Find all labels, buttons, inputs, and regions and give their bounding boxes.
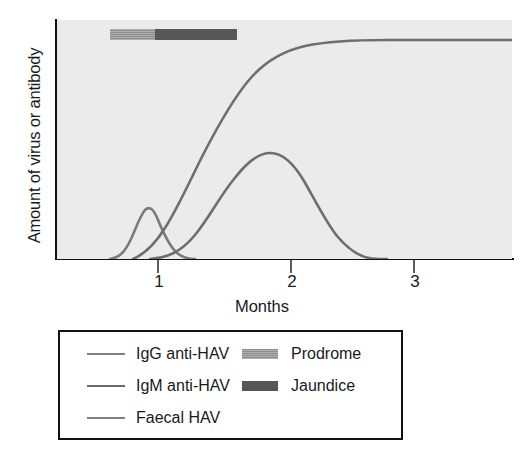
- legend-label-igm: IgM anti-HAV: [136, 378, 230, 394]
- hav-serology-figure: Amount of virus or antibody 1 2 3 Months…: [0, 0, 524, 464]
- legend-item-faecal: Faecal HAV: [87, 410, 220, 426]
- curve-faecal-hav: [110, 208, 195, 259]
- legend-item-igg: IgG anti-HAV: [87, 346, 229, 362]
- legend-line-icon-faecal: [87, 417, 125, 419]
- y-axis-label: Amount of virus or antibody: [25, 16, 44, 276]
- legend-swatch-icon-jaundice: [242, 381, 278, 391]
- x-tick-label-2: 2: [277, 272, 307, 292]
- legend-label-prodrome: Prodrome: [291, 346, 361, 362]
- legend-label-jaundice: Jaundice: [291, 378, 355, 394]
- x-tick-label-1: 1: [144, 272, 174, 292]
- legend-item-prodrome: Prodrome: [242, 346, 361, 362]
- legend-line-icon-igg: [87, 353, 125, 355]
- legend-swatch-icon-prodrome: [242, 349, 278, 359]
- curve-igm-anti-hav: [150, 153, 387, 259]
- legend-item-jaundice: Jaundice: [242, 378, 355, 394]
- legend-line-icon-igm: [87, 385, 125, 387]
- curves-svg: [57, 20, 512, 259]
- plot-area: [57, 20, 512, 259]
- phase-segment-prodrome: [110, 29, 155, 40]
- chart-legend: IgG anti-HAV IgM anti-HAV Faecal HAV Pro…: [58, 330, 403, 440]
- x-axis-label: Months: [0, 297, 524, 316]
- phase-segment-jaundice: [155, 29, 237, 40]
- legend-label-igg: IgG anti-HAV: [136, 346, 229, 362]
- phase-bar: [110, 29, 237, 40]
- x-tick-label-3: 3: [400, 272, 430, 292]
- legend-item-igm: IgM anti-HAV: [87, 378, 230, 394]
- legend-label-faecal: Faecal HAV: [136, 410, 220, 426]
- curve-igg-anti-hav: [133, 40, 512, 259]
